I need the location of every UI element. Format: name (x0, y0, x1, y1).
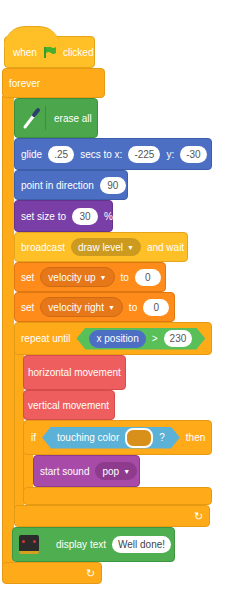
microbit-icon (19, 535, 39, 554)
sound-value: pop (102, 466, 119, 477)
chevron-down-icon: ▼ (108, 304, 115, 311)
chevron-down-icon: ▼ (123, 468, 130, 475)
erase-all-block[interactable]: erase all (14, 98, 98, 138)
repeat-until-block[interactable]: repeat until x position > 230 (14, 322, 212, 355)
sound-dropdown[interactable]: pop▼ (95, 462, 137, 480)
broadcast-label: broadcast (21, 242, 65, 253)
y-label: y: (166, 149, 174, 160)
variable-value: velocity right (48, 302, 104, 313)
loop-arrow-icon: ↻ (194, 510, 203, 523)
touching-color-label: touching color (57, 432, 119, 443)
percent-label: % (104, 211, 113, 222)
forever-block[interactable]: forever (2, 68, 105, 98)
display-text-input[interactable]: Well done! (112, 536, 171, 553)
set-size-block[interactable]: set size to 30 % (14, 200, 113, 232)
repeat-until-label: repeat until (21, 333, 70, 344)
point-in-direction-block[interactable]: point in direction 90 (14, 170, 128, 200)
touching-color-condition[interactable]: touching color ? (42, 427, 180, 449)
operator-label: > (152, 333, 158, 344)
value-input[interactable]: 0 (143, 299, 169, 316)
direction-input[interactable]: 90 (100, 177, 126, 194)
start-sound-block[interactable]: start sound pop▼ (33, 455, 140, 487)
color-swatch[interactable] (125, 428, 153, 448)
horizontal-movement-label: horizontal movement (28, 367, 121, 378)
message-value: draw level (78, 242, 123, 253)
start-sound-label: start sound (40, 466, 89, 477)
set-label: set (21, 302, 34, 313)
value-input[interactable]: 0 (135, 269, 161, 286)
compare-value-input[interactable]: 230 (164, 330, 193, 347)
horizontal-movement-block[interactable]: horizontal movement (23, 355, 126, 390)
pen-icon (21, 106, 46, 130)
forever-arm (2, 96, 14, 580)
then-label: then (186, 432, 205, 443)
forever-label: forever (9, 78, 40, 89)
glide-x-input[interactable]: -225 (128, 146, 160, 163)
glide-y-input[interactable]: -30 (180, 146, 206, 163)
if-then-block[interactable]: if touching color ? then (23, 420, 212, 455)
set-velocity-right-block[interactable]: set velocity right▼ to 0 (14, 292, 175, 322)
chevron-down-icon: ▼ (127, 244, 134, 251)
x-position-reporter[interactable]: x position (89, 330, 145, 348)
glide-secs-input[interactable]: .25 (48, 146, 74, 163)
set-label: set (21, 272, 34, 283)
variable-value: velocity up (48, 272, 95, 283)
greater-than-operator[interactable]: x position > 230 (76, 328, 205, 350)
size-input[interactable]: 30 (72, 208, 98, 225)
erase-all-label: erase all (54, 113, 92, 124)
clicked-label: clicked (63, 47, 94, 58)
variable-dropdown[interactable]: velocity up▼ (40, 267, 114, 287)
set-size-label: set size to (21, 211, 66, 222)
vertical-movement-label: vertical movement (28, 400, 109, 411)
if-label: if (31, 432, 36, 443)
repeat-until-bottom[interactable]: ↻ (14, 505, 210, 527)
when-label: when (13, 47, 37, 58)
green-flag-icon (43, 45, 57, 59)
glide-label: glide (21, 149, 42, 160)
broadcast-message-dropdown[interactable]: draw level▼ (71, 238, 141, 256)
if-bottom[interactable] (23, 487, 212, 505)
chevron-down-icon: ▼ (100, 274, 107, 281)
hat-dome (4, 26, 60, 47)
secs-to-x-label: secs to x: (80, 149, 122, 160)
question-mark-label: ? (159, 432, 165, 443)
to-label: to (121, 272, 129, 283)
display-text-label: display text (56, 539, 106, 550)
to-label: to (129, 302, 137, 313)
forever-bottom[interactable]: ↻ (2, 562, 102, 584)
glide-block[interactable]: glide .25 secs to x: -225 y: -30 (14, 138, 212, 170)
broadcast-and-wait-block[interactable]: broadcast draw level▼ and wait (14, 232, 188, 262)
set-velocity-up-block[interactable]: set velocity up▼ to 0 (14, 262, 166, 292)
point-in-direction-label: point in direction (21, 180, 94, 191)
display-text-block[interactable]: display text Well done! (12, 527, 175, 562)
loop-arrow-icon: ↻ (86, 567, 95, 580)
and-wait-label: and wait (147, 242, 184, 253)
variable-dropdown[interactable]: velocity right▼ (40, 297, 123, 317)
vertical-movement-block[interactable]: vertical movement (23, 390, 115, 420)
